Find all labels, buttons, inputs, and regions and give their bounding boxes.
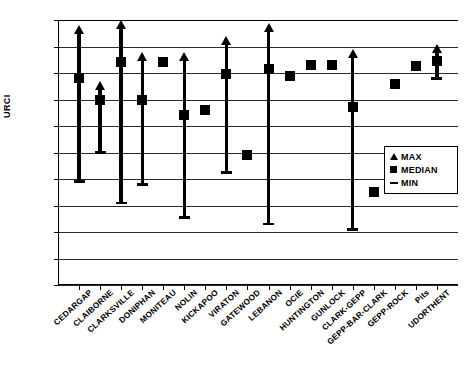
min-marker <box>347 228 358 231</box>
min-marker <box>263 223 274 226</box>
urci-range-chart: URCI 1009080706050403020100 CEDARGAPCLAI… <box>0 0 466 391</box>
gridline <box>58 285 458 286</box>
min-marker <box>116 202 127 205</box>
max-marker <box>116 20 126 29</box>
median-marker <box>95 95 105 105</box>
max-marker <box>95 81 105 90</box>
range-bar <box>267 30 270 224</box>
y-tick-mark <box>54 100 58 101</box>
y-tick-mark <box>54 20 58 21</box>
dash-icon <box>389 182 398 184</box>
range-bar <box>225 43 228 172</box>
range-bar <box>77 32 80 181</box>
y-tick-mark <box>54 153 58 154</box>
median-marker <box>411 61 421 71</box>
max-marker <box>432 44 442 53</box>
median-marker <box>264 64 274 74</box>
min-marker <box>74 180 85 183</box>
range-bar <box>119 27 122 203</box>
range-bar <box>141 59 144 185</box>
max-marker <box>74 25 84 34</box>
median-marker <box>158 57 168 67</box>
median-marker <box>179 110 189 120</box>
legend-item-max: MAX <box>389 150 453 163</box>
max-marker <box>137 52 147 61</box>
triangle-up-icon <box>389 153 398 160</box>
gridline <box>58 206 458 207</box>
max-marker <box>221 36 231 45</box>
legend-item-median: MEDIAN <box>389 163 453 176</box>
median-marker <box>327 60 337 70</box>
max-marker <box>179 52 189 61</box>
median-marker <box>221 69 231 79</box>
x-axis-labels: CEDARGAPCLAIBORNECLARKSVILLEDONIPHANMONI… <box>58 288 466 388</box>
median-marker <box>390 79 400 89</box>
y-tick-mark <box>54 232 58 233</box>
median-marker <box>137 95 147 105</box>
max-marker <box>348 49 358 58</box>
legend-label-max: MAX <box>401 152 422 162</box>
median-marker <box>116 57 126 67</box>
min-marker <box>137 183 148 186</box>
y-tick-mark <box>54 126 58 127</box>
y-tick-mark <box>54 179 58 180</box>
min-marker <box>179 216 190 219</box>
median-marker <box>306 60 316 70</box>
y-tick-mark <box>54 259 58 260</box>
min-marker <box>221 171 232 174</box>
median-marker <box>74 73 84 83</box>
y-axis-title: URCI <box>2 58 12 118</box>
gridline <box>58 126 458 127</box>
y-tick-mark <box>54 206 58 207</box>
median-marker <box>242 150 252 160</box>
legend-label-min: MIN <box>401 178 418 188</box>
y-tick-mark <box>54 285 58 286</box>
gridline <box>58 47 458 48</box>
y-tick-mark <box>54 73 58 74</box>
gridline <box>58 100 458 101</box>
chart-legend: MAX MEDIAN MIN <box>384 146 458 194</box>
min-marker <box>431 77 442 80</box>
range-bar <box>351 56 354 229</box>
y-tick-mark <box>54 47 58 48</box>
min-marker <box>95 151 106 154</box>
gridline <box>58 73 458 74</box>
gridline <box>58 259 458 260</box>
median-marker <box>200 105 210 115</box>
legend-label-median: MEDIAN <box>401 165 438 175</box>
median-marker <box>432 56 442 66</box>
range-bar <box>183 59 186 218</box>
gridline <box>58 232 458 233</box>
median-marker <box>285 71 295 81</box>
square-icon <box>389 166 398 173</box>
median-marker <box>348 102 358 112</box>
median-marker <box>369 187 379 197</box>
legend-item-min: MIN <box>389 176 453 189</box>
max-marker <box>264 23 274 32</box>
